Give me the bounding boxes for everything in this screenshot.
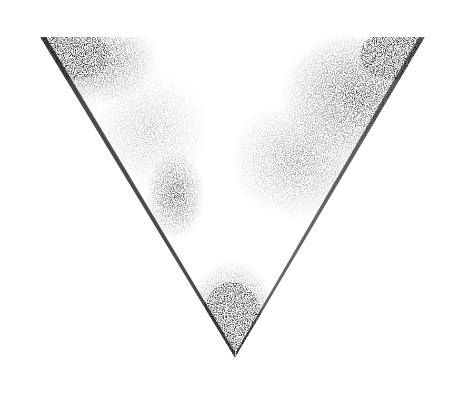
light-orb [191,239,215,263]
triangle-artwork [0,0,457,408]
triangle-body [0,0,457,408]
